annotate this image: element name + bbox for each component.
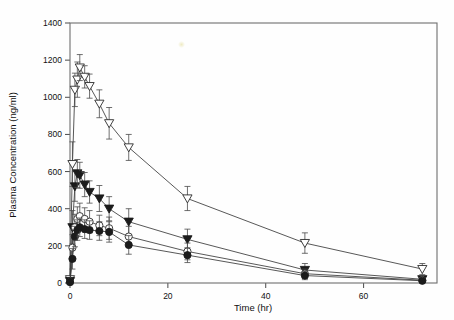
y-tick-label-800: 800 <box>48 129 62 139</box>
x-tick-label-0: 0 <box>68 291 73 301</box>
data-point-filled-circle <box>96 227 103 234</box>
data-point-open-triangle-down <box>418 265 427 273</box>
x-axis-tick-group: 0204060 <box>68 283 369 301</box>
data-point-open-triangle-down <box>70 86 79 94</box>
y-axis-title: Plasma Concentration (ng/ml) <box>7 92 18 218</box>
y-axis-tick-group: 0200400600800100012001400 <box>43 18 70 288</box>
data-point-filled-triangle-down <box>124 218 133 226</box>
data-point-filled-circle <box>419 277 426 284</box>
y-tick-label-1000: 1000 <box>43 92 62 102</box>
y-tick-label-1400: 1400 <box>43 18 62 28</box>
series-open-triangle-series <box>65 55 427 284</box>
y-tick-label-600: 600 <box>48 167 62 177</box>
data-point-open-triangle-down <box>183 195 192 203</box>
data-point-open-triangle-down <box>85 83 94 91</box>
data-point-filled-circle <box>69 255 76 262</box>
y-tick-label-400: 400 <box>48 204 62 214</box>
data-point-filled-circle <box>106 228 113 235</box>
data-point-open-triangle-down <box>95 100 104 108</box>
data-point-filled-circle <box>301 272 308 279</box>
data-point-filled-triangle-down <box>105 205 114 213</box>
data-point-filled-circle <box>86 226 93 233</box>
series-filled-triangle-series <box>65 160 427 286</box>
data-point-filled-triangle-down <box>183 236 192 244</box>
data-point-filled-triangle-down <box>80 181 89 189</box>
data-point-open-triangle-down <box>68 161 77 169</box>
x-tick-label-60: 60 <box>359 291 369 301</box>
plasma-concentration-chart: 0200400600800100012001400 0204060 Plasma… <box>0 0 454 320</box>
data-point-filled-circle <box>125 241 132 248</box>
series-line <box>70 216 422 282</box>
x-tick-label-40: 40 <box>261 291 271 301</box>
data-point-filled-triangle-down <box>85 188 94 196</box>
data-point-open-triangle-down <box>105 120 114 128</box>
series-open-circle-series <box>66 203 426 286</box>
data-point-filled-circle <box>66 278 73 285</box>
x-axis-title: Time (hr) <box>234 302 272 313</box>
data-point-open-triangle-down <box>73 76 82 84</box>
x-tick-label-20: 20 <box>163 291 173 301</box>
y-tick-label-200: 200 <box>48 241 62 251</box>
series-layer <box>65 55 427 286</box>
figure-container: 0200400600800100012001400 0204060 Plasma… <box>0 0 454 320</box>
series-line <box>70 68 422 280</box>
data-point-filled-circle <box>184 252 191 259</box>
y-tick-label-0: 0 <box>57 278 62 288</box>
data-point-open-triangle-down <box>75 64 84 72</box>
y-tick-label-1200: 1200 <box>43 55 62 65</box>
